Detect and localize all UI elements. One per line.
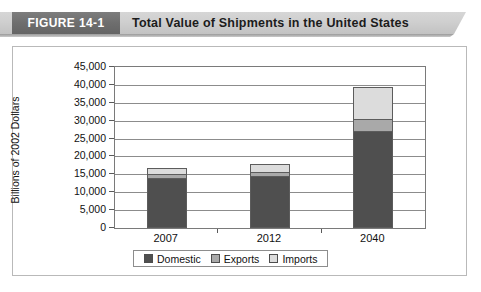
y-axis-tick-label: 10,000: [50, 185, 106, 197]
legend-swatch-domestic: [144, 254, 153, 263]
legend-label: Domestic: [157, 253, 201, 265]
legend-label: Imports: [282, 253, 317, 265]
y-axis-tick-label: 40,000: [50, 78, 106, 90]
bar-segment-domestic: [250, 176, 290, 228]
y-axis-tick-label: 15,000: [50, 167, 106, 179]
bar-2012: [250, 164, 290, 228]
y-axis-title: Billions of 2002 Dollars: [9, 75, 21, 225]
x-axis-tick-label: 2040: [337, 232, 407, 244]
bar-2040: [353, 87, 393, 228]
bar-segment-domestic: [147, 178, 187, 228]
figure-header: FIGURE 14-1 Total Value of Shipments in …: [0, 12, 481, 39]
bar-segment-exports: [353, 119, 393, 132]
y-axis-tick-label: 30,000: [50, 114, 106, 126]
y-axis-tick-label: 20,000: [50, 149, 106, 161]
y-axis-tick-label: 0: [50, 221, 106, 233]
legend-item-domestic: Domestic: [144, 253, 201, 265]
bar-segment-imports: [250, 164, 290, 172]
figure-title: Total Value of Shipments in the United S…: [132, 12, 409, 34]
legend-item-exports: Exports: [211, 253, 260, 265]
legend-item-imports: Imports: [269, 253, 317, 265]
x-axis-tick-label: 2007: [131, 232, 201, 244]
y-axis-tick-label: 35,000: [50, 96, 106, 108]
plot-area: [114, 66, 426, 229]
figure-header-shadow: [0, 34, 454, 37]
legend-swatch-exports: [211, 254, 220, 263]
x-axis-tick-mark: [217, 229, 218, 233]
y-axis-tick-label: 45,000: [50, 60, 106, 72]
bar-segment-imports: [353, 87, 393, 119]
legend-swatch-imports: [269, 254, 278, 263]
legend-label: Exports: [224, 253, 260, 265]
y-axis-tick-label: 5,000: [50, 203, 106, 215]
chart-panel: Billions of 2002 Dollars 05,00010,00015,…: [12, 46, 467, 276]
chart-legend: DomesticExportsImports: [133, 250, 328, 267]
bar-2007: [147, 168, 187, 228]
bar-segment-domestic: [353, 131, 393, 228]
x-axis-tick-mark: [321, 229, 322, 233]
y-axis-tick-label: 25,000: [50, 132, 106, 144]
x-axis-tick-label: 2012: [234, 232, 304, 244]
figure-number-badge: FIGURE 14-1: [12, 12, 120, 34]
